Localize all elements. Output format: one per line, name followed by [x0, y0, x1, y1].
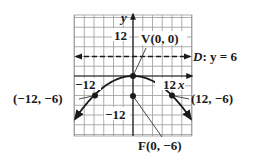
left-point-label: (−12, −6)	[13, 91, 62, 106]
left-point	[92, 93, 98, 99]
directrix-label-d: D	[192, 49, 203, 64]
vertex-label: V(0, 0)	[141, 31, 179, 46]
y-tick-top: 12	[114, 28, 127, 43]
vertex-point	[130, 73, 136, 79]
y-axis-label: y	[119, 10, 127, 25]
right-point	[169, 93, 175, 99]
x-tick-left: −12	[75, 77, 95, 92]
focus-point	[130, 93, 136, 99]
vertex-leader	[133, 48, 146, 76]
directrix-label: D: y = 6	[192, 49, 237, 64]
focus-leader	[133, 96, 162, 137]
right-point-label: (12, −6)	[191, 91, 233, 106]
y-tick-bottom: −12	[105, 107, 125, 122]
directrix-label-eq: : y = 6	[202, 49, 237, 64]
focus-label: F(0, −6)	[138, 138, 182, 153]
x-tick-right: 12	[163, 77, 176, 92]
x-axis-label: x	[177, 77, 185, 92]
parabola-graph: y 12 −12 12 x −12 V(0, 0) F(0, −6) (−12,…	[0, 0, 268, 158]
